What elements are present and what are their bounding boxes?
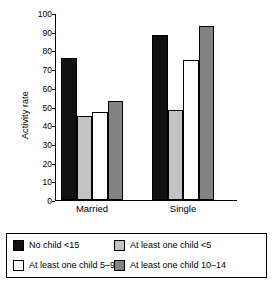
bar: [77, 116, 93, 200]
legend-item: At least one child 10–14: [114, 258, 226, 273]
y-tick-label: 30: [43, 141, 52, 149]
legend-swatch-icon: [114, 240, 125, 251]
plot-area: Activity rate 1009080706050403020100 Mar…: [0, 0, 275, 222]
legend-label: At least one child 10–14: [130, 260, 226, 271]
legend-swatch-icon: [114, 260, 125, 271]
bar: [168, 110, 184, 200]
y-tick-label: 80: [43, 47, 52, 55]
y-tick-label: 60: [43, 85, 52, 93]
legend-item: No child <15: [13, 238, 79, 253]
axis-frame: [55, 14, 237, 201]
legend-label: At least one child <5: [130, 240, 211, 251]
y-tick-label: 10: [43, 178, 52, 186]
y-axis-title: Activity rate: [18, 60, 32, 170]
legend-label: No child <15: [29, 240, 79, 251]
bar: [92, 112, 108, 200]
y-tick-label: 20: [43, 160, 52, 168]
y-tick-label: 90: [43, 29, 52, 37]
bar: [61, 58, 77, 200]
legend: No child <15At least one child <5At leas…: [6, 233, 267, 278]
bar: [199, 26, 215, 200]
legend-item: At least one child 5–9: [13, 258, 115, 273]
y-axis-line: [55, 14, 56, 201]
y-tick-label: 100: [38, 10, 52, 18]
x-axis-line: [55, 200, 237, 201]
x-category-label: Married: [76, 203, 108, 214]
x-axis-category-labels: MarriedSingle: [55, 203, 237, 221]
legend-label: At least one child 5–9: [29, 260, 115, 271]
y-tick-label: 70: [43, 66, 52, 74]
activity-rate-bar-chart: Activity rate 1009080706050403020100 Mar…: [0, 0, 275, 284]
x-category-label: Single: [170, 203, 196, 214]
bar: [183, 60, 199, 200]
legend-swatch-icon: [13, 240, 24, 251]
y-tick-label: 50: [43, 104, 52, 112]
y-tick-mark: [52, 201, 55, 202]
y-tick-label: 40: [43, 122, 52, 130]
bar: [152, 35, 168, 200]
bar: [108, 101, 124, 200]
legend-swatch-icon: [13, 260, 24, 271]
y-axis-tick-labels: 1009080706050403020100: [34, 0, 54, 222]
legend-item: At least one child <5: [114, 238, 211, 253]
